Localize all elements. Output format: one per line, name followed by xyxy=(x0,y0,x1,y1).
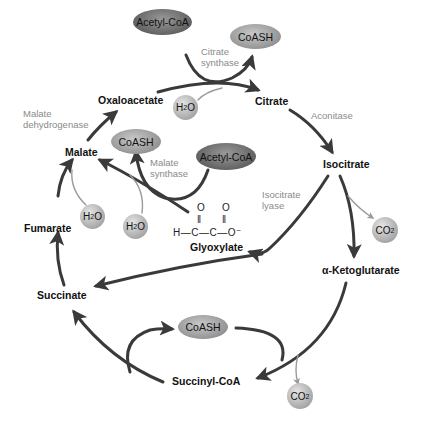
acetyl-coa-label: Acetyl-CoA xyxy=(200,151,253,163)
subscript: 2 xyxy=(391,227,395,234)
arrow-isocitrate-lyase xyxy=(250,176,328,253)
arrow-isocitrate-to-ketoglutarate xyxy=(340,176,354,256)
arrow-succinylcoa-to-succinate xyxy=(74,312,163,382)
h2o-fumarate-ball: H2O xyxy=(80,204,105,229)
enzyme-malate-synthase: Malate synthase xyxy=(150,158,188,180)
metabolite-isocitrate: Isocitrate xyxy=(323,159,370,170)
coash-top-oval: CoASH xyxy=(230,24,281,49)
arrow-fumarate-to-malate xyxy=(58,160,72,196)
metabolite-glyoxylate: Glyoxylate xyxy=(190,242,243,253)
arrow-oxaloacetate-to-citrate xyxy=(158,83,258,92)
h-symbol: H xyxy=(126,221,133,232)
enzyme-line: synthase xyxy=(150,169,188,180)
arrow-h2o-citrate xyxy=(198,88,222,100)
enzyme-isocitrate-lyase: Isocitrate lyase xyxy=(262,190,301,212)
glyoxylate-double-bond-2: ‖ xyxy=(222,214,226,225)
h-symbol: H xyxy=(176,102,183,113)
glyoxylate-chain: H—C—C—O⁻ xyxy=(173,227,242,238)
acetyl-coa-mid-oval: Acetyl-CoA xyxy=(196,143,256,170)
o-symbol: O xyxy=(94,211,102,222)
metabolite-malate: Malate xyxy=(65,147,98,158)
glyoxylate-double-bond-1: ‖ xyxy=(197,214,201,225)
enzyme-line: lyase xyxy=(262,201,301,212)
enzyme-aconitase: Aconitase xyxy=(311,111,353,122)
enzyme-line: dehydrogenase xyxy=(23,120,89,131)
coash-label: CoASH xyxy=(238,31,273,43)
enzyme-citrate-synthase: Citrate synthase xyxy=(201,47,239,69)
coash-label: CoASH xyxy=(185,321,220,333)
co-symbol: CO xyxy=(291,391,306,402)
arrow-coash-into-succinylcoa xyxy=(236,328,283,360)
coash-label: CoASH xyxy=(118,136,153,148)
enzyme-line: synthase xyxy=(201,58,239,69)
acetyl-coa-label: Acetyl-CoA xyxy=(136,16,189,28)
glyoxylate-cycle-diagram: Acetyl-CoA CoASH CoASH Acetyl-CoA CoASH … xyxy=(0,0,422,424)
coash-bottom-oval: CoASH xyxy=(178,315,228,339)
glyoxylate-o2: O xyxy=(222,202,230,213)
metabolite-alpha-ketoglutarate: α-Ketoglutarate xyxy=(322,265,400,276)
arrow-malate-to-oxaloacetate xyxy=(88,112,116,140)
coash-mid-oval: CoASH xyxy=(111,129,161,154)
metabolite-citrate: Citrate xyxy=(255,96,288,107)
arrow-succinate-to-fumarate xyxy=(57,233,64,285)
metabolite-succinyl-coa: Succinyl-CoA xyxy=(172,376,240,387)
acetyl-coa-top-oval: Acetyl-CoA xyxy=(133,9,192,35)
arrow-lyase-to-succinate xyxy=(96,254,262,286)
arrow-ketoglutarate-to-succinylcoa xyxy=(258,283,346,378)
o-symbol: O xyxy=(187,102,195,113)
metabolite-oxaloacetate: Oxaloacetate xyxy=(98,95,163,106)
enzyme-malate-dehydrogenase: Malate dehydrogenase xyxy=(23,109,89,131)
h2o-malate-synthase-ball: H2O xyxy=(123,214,148,239)
co2-ketoglutarate-ball: CO2 xyxy=(287,383,313,409)
metabolite-fumarate: Fumarate xyxy=(24,223,71,234)
h2o-citrate-ball: H2O xyxy=(173,95,198,120)
o-symbol: O xyxy=(137,221,145,232)
glyoxylate-o1: O xyxy=(197,202,205,213)
arrow-co2-ketoglutarate xyxy=(296,355,298,384)
co2-isocitrate-ball: CO2 xyxy=(372,217,398,243)
metabolite-succinate: Succinate xyxy=(37,290,87,301)
subscript: 2 xyxy=(306,393,310,400)
arrow-h2o-fumarate xyxy=(72,170,86,205)
co-symbol: CO xyxy=(376,225,391,236)
arrow-succinyl-coash-out xyxy=(128,329,173,372)
h-symbol: H xyxy=(83,211,90,222)
